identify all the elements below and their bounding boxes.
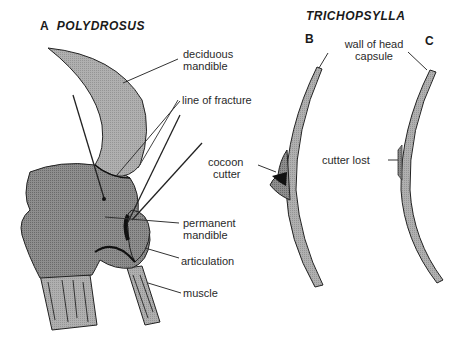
- panel-c-letter: C: [425, 34, 434, 48]
- panel-a-genus: POLYDROSUS: [57, 19, 145, 33]
- head-capsule-wall-c: [401, 70, 443, 283]
- label-deciduous-mandible: mandible: [183, 61, 228, 72]
- label-articulation: articulation: [181, 256, 234, 267]
- panel-b-letter: B: [305, 32, 314, 46]
- panel-a-letter: A: [40, 19, 49, 33]
- label-cutter: cutter: [213, 169, 241, 180]
- trichopsylla-title: TRICHOPSYLLA: [306, 9, 405, 23]
- muscle-bundle-right: [127, 266, 160, 325]
- muscle-bundle-left: [40, 275, 97, 330]
- label-muscle: muscle: [183, 288, 218, 299]
- trichopsylla-genus: TRICHOPSYLLA: [306, 9, 405, 23]
- label-cutter-lost: cutter lost: [322, 155, 370, 166]
- label-permanent-mandible: mandible: [183, 230, 228, 241]
- label-deciduous: deciduous: [183, 49, 233, 60]
- label-line-of-fracture: line of fracture: [182, 95, 252, 106]
- panel-a-title: A POLYDROSUS: [40, 19, 145, 33]
- head-capsule-wall-b: [286, 67, 323, 287]
- label-permanent: permanent: [183, 218, 236, 229]
- label-cocoon: cocoon: [208, 157, 243, 168]
- label-wall-of-head: wall of head: [334, 39, 414, 50]
- label-capsule: capsule: [334, 51, 414, 62]
